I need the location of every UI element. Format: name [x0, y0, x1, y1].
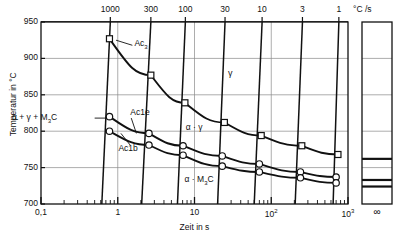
x-axis-title: Zeit in s [165, 223, 225, 232]
x-tick-label: 0,1 [27, 208, 55, 217]
marker-ac1e [219, 153, 225, 159]
top-tick-label-100: 100 [170, 5, 200, 14]
marker-ac3 [258, 133, 264, 139]
heating-rate-line-10 [254, 22, 262, 204]
marker-ac1b [106, 128, 112, 134]
plot-canvas [0, 0, 402, 241]
marker-ac1b [297, 175, 303, 181]
marker-ac3 [335, 151, 341, 157]
y-axis-title: Temperatur in °C [9, 59, 18, 149]
marker-ac1b [146, 142, 152, 148]
top-tick-label-1: 1 [324, 5, 354, 14]
heating-rate-line-30 [218, 22, 225, 204]
curve-label-ac1e: Ac1e [130, 108, 149, 117]
y-tick-label: 800 [0, 126, 38, 135]
equilibrium-panel-frame [362, 22, 392, 204]
top-tick-label-3: 3 [287, 5, 317, 14]
marker-ac1e [256, 161, 262, 167]
top-axis-unit-label: °C /s [353, 5, 372, 14]
curve-label-ac3: Ac3 [134, 39, 147, 50]
region-label-alpha-gamma: α · γ [186, 123, 203, 132]
marker-ac3 [299, 143, 305, 149]
y-tick-label: 850 [0, 90, 38, 99]
region-label-gamma: γ [228, 69, 233, 78]
y-tick-label: 950 [0, 17, 38, 26]
marker-ac3 [106, 36, 112, 42]
marker-ac1e [180, 143, 186, 149]
x-tick-label: 1 [104, 208, 132, 217]
x-tick-label: 103 [334, 208, 362, 218]
cht-diagram-figure: 700750800850900950Temperatur in °C0,1110… [0, 0, 402, 241]
marker-ac3 [221, 119, 227, 125]
marker-ac1b [219, 163, 225, 169]
marker-ac1e [106, 113, 112, 119]
marker-ac1b [256, 169, 262, 175]
curve-label-ac1b: Ac1b [118, 144, 137, 153]
region-label-alpha-gamma-m3c: α + γ + M3C [12, 113, 57, 124]
y-tick-label: 700 [0, 199, 38, 208]
marker-ac3 [182, 100, 188, 106]
x-tick-label: 10 [181, 208, 209, 217]
ac3-leader [116, 40, 132, 45]
marker-ac3 [148, 72, 154, 78]
top-tick-label-1000: 1000 [95, 5, 125, 14]
y-tick-label: 900 [0, 53, 38, 62]
marker-ac1b [180, 152, 186, 158]
infinity-tick-label: ∞ [367, 207, 387, 217]
top-tick-label-30: 30 [210, 5, 240, 14]
top-tick-label-10: 10 [247, 5, 277, 14]
x-tick-label: 102 [257, 208, 285, 218]
y-tick-label: 750 [0, 163, 38, 172]
marker-ac1b [333, 180, 339, 186]
marker-ac1e [146, 130, 152, 136]
region-label-alpha-m3c: α · M3C [185, 175, 214, 186]
top-tick-label-300: 300 [136, 5, 166, 14]
